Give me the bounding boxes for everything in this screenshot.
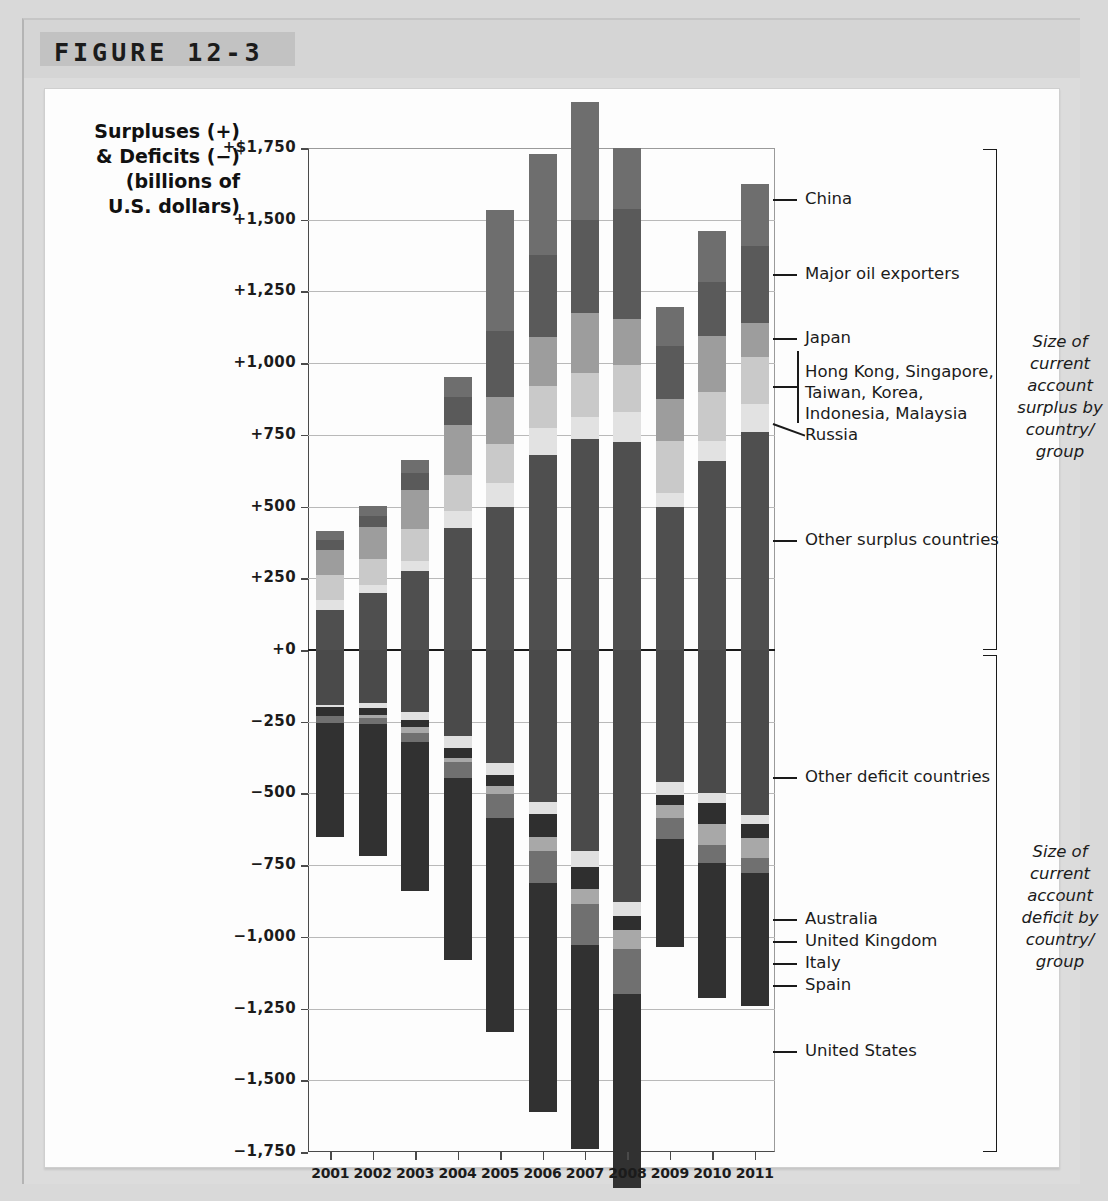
bar-segment (486, 507, 514, 650)
bar-segment (571, 867, 599, 889)
bar-segment (444, 748, 472, 758)
bar-segment (613, 365, 641, 412)
y-tick-mark (301, 363, 308, 365)
surplus-note: Size ofcurrentaccountsurplus bycountry/g… (1000, 331, 1108, 463)
leader-spain (773, 985, 797, 987)
y-tick-mark (301, 1080, 308, 1082)
bar-segment (359, 516, 387, 527)
bar-segment (571, 439, 599, 650)
x-tick-label: 2010 (690, 1165, 734, 1181)
legend-australia: Australia (805, 908, 878, 929)
bar-segment (316, 716, 344, 723)
legend-russia: Russia (805, 424, 858, 445)
legend-asia-line-2: Taiwan, Korea, (805, 382, 924, 403)
bar-segment (741, 404, 769, 432)
bar-segment (444, 736, 472, 747)
bar-segment (529, 814, 557, 837)
leader-other-deficit (773, 777, 797, 779)
bar-segment (529, 455, 557, 650)
bar-segment (529, 837, 557, 851)
leader-italy (773, 963, 797, 965)
side-note-line: current (1000, 863, 1108, 885)
legend-other-surplus-countries: Other surplus countries (805, 529, 999, 550)
y-tick-mark (301, 1009, 308, 1011)
bar-segment (741, 246, 769, 323)
bar-segment (401, 733, 429, 742)
bar-segment (741, 824, 769, 837)
legend-japan: Japan (805, 327, 851, 348)
bar-segment (741, 650, 769, 815)
y-tick-mark (301, 578, 308, 580)
bar-segment (359, 585, 387, 594)
leader-united-states (773, 1051, 797, 1053)
bar-segment (656, 441, 684, 493)
x-tick-mark (670, 1152, 672, 1160)
y-tick-mark (301, 220, 308, 222)
bar-segment (316, 540, 344, 550)
bar-segment (486, 483, 514, 507)
bar-segment (316, 723, 344, 837)
bar-segment (316, 707, 344, 716)
bar-segment (613, 412, 641, 442)
x-tick-label: 2011 (733, 1165, 777, 1181)
x-tick-mark (500, 1152, 502, 1160)
y-tick-label: +$1,750 (208, 138, 296, 156)
bar-segment (444, 778, 472, 960)
bar-segment (656, 399, 684, 441)
x-tick-mark (330, 1152, 332, 1160)
bar-segment (359, 506, 387, 516)
bar-segment (571, 102, 599, 220)
bar-segment (741, 323, 769, 357)
bar-segment (359, 724, 387, 856)
leader-oil (773, 274, 797, 276)
bar-segment (656, 493, 684, 507)
y-tick-label: −1,500 (208, 1070, 296, 1088)
bar-segment (444, 528, 472, 650)
side-note-line: Size of (1000, 841, 1108, 863)
x-tick-mark (755, 1152, 757, 1160)
legend-asia-line-1: Hong Kong, Singapore, (805, 361, 994, 382)
y-tick-label: +750 (208, 425, 296, 443)
leader-united-kingdom (773, 941, 797, 943)
bar-segment (529, 428, 557, 455)
y-tick-label: −250 (208, 712, 296, 730)
y-tick-label: +1,500 (208, 210, 296, 228)
bar-segment (529, 883, 557, 1112)
bar-segment (571, 220, 599, 312)
leader-asia-group (773, 386, 797, 388)
legend-china: China (805, 188, 852, 209)
y-tick-mark (301, 937, 308, 939)
bar-segment (486, 786, 514, 794)
bar-segment (698, 824, 726, 845)
leader-australia (773, 919, 797, 921)
bar-segment (486, 444, 514, 483)
side-note-line: deficit by (1000, 907, 1108, 929)
deficit-brace (983, 655, 997, 1152)
y-tick-mark (301, 291, 308, 293)
bar-segment (656, 650, 684, 782)
bar-segment (613, 902, 641, 915)
bar-segment (486, 794, 514, 818)
bar-segment (401, 490, 429, 529)
bar-segment (359, 527, 387, 559)
bar-segment (741, 838, 769, 858)
bar-segment (698, 441, 726, 461)
side-note-line: group (1000, 951, 1108, 973)
y-tick-mark (301, 865, 308, 867)
bar-segment (741, 873, 769, 1007)
bar-segment (529, 851, 557, 883)
bar-segment (359, 718, 387, 725)
y-tick-mark (301, 435, 308, 437)
bar-segment (698, 282, 726, 337)
bar-segment (571, 417, 599, 439)
side-note-line: group (1000, 441, 1108, 463)
x-tick-mark (458, 1152, 460, 1160)
bar-segment (486, 818, 514, 1032)
x-tick-mark (373, 1152, 375, 1160)
bar-segment (656, 507, 684, 650)
asia-group-bracket (797, 351, 799, 423)
bar-segment (401, 712, 429, 720)
bar-segment (316, 550, 344, 575)
bar-segment (359, 708, 387, 715)
